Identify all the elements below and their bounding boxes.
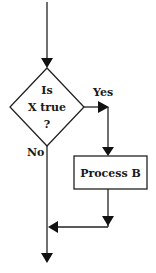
arrowhead-down-icon bbox=[41, 58, 53, 68]
decision-text-line3: ? bbox=[44, 118, 50, 131]
arrowhead-down-icon bbox=[102, 216, 114, 226]
arrowhead-down-icon bbox=[102, 147, 114, 156]
decision-text-line1: Is bbox=[41, 84, 52, 97]
yes-label: Yes bbox=[92, 86, 113, 99]
decision-text-line2: X true bbox=[28, 101, 66, 114]
arrowhead-down-icon bbox=[41, 253, 53, 263]
no-label: No bbox=[27, 146, 44, 159]
flowchart-canvas: Is X true ? Yes Process B No bbox=[0, 0, 156, 273]
arrowhead-left-icon bbox=[48, 221, 58, 233]
process-label: Process B bbox=[80, 167, 141, 180]
